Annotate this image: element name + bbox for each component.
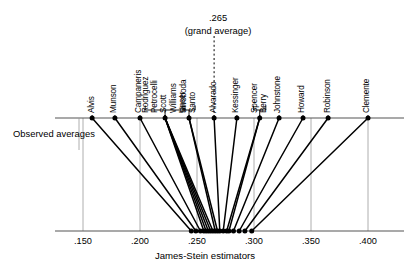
james-stein-point [231,229,236,234]
player-label-clemente: Clemente [362,79,371,113]
x-tick-label: .350 [291,236,331,246]
james-stein-point [249,229,254,234]
player-label-swoboda: Swoboda [179,80,188,113]
connector-line [229,118,260,231]
player-label-howard: Howard [297,85,306,113]
player-label-rodriguez: Rodriguez [141,77,150,113]
player-label-munson: Munson [109,84,118,113]
james-stein-point [242,229,247,234]
player-label-santo: Santo [188,92,197,113]
player-label-williams: Williams [169,83,178,113]
player-label-scott: Scott [159,95,168,113]
player-label-spencer: Spencer [250,83,259,113]
connector-line [245,118,328,231]
connector-line [214,118,220,231]
james-stein-point [226,229,231,234]
player-label-petrocelli: Petrocelli [150,80,159,113]
x-axis-title: James-Stein estimators [125,250,285,261]
x-tick-label: .400 [348,236,388,246]
x-tick-label: .250 [177,236,217,246]
player-label-robinson: Robinson [323,79,332,113]
player-label-alvarado: Alvarado [209,81,218,113]
connector-line [223,118,237,231]
x-tick-label: .150 [63,236,103,246]
connector-line [92,118,191,231]
player-label-johnstone: Johnstone [273,76,282,113]
james-stein-figure: .265 (grand average) Observed averages J… [0,0,411,268]
connector-line [252,118,368,231]
player-label-berry: Berry [259,94,268,113]
observed-averages-label: Observed averages [13,128,95,139]
james-stein-point [237,229,242,234]
james-stein-point [189,229,194,234]
connector-line [239,118,303,231]
player-label-kessinger: Kessinger [231,77,240,113]
grand-average-value: .265 [188,12,248,23]
james-stein-point [193,229,198,234]
connector-line [165,118,213,231]
connector-line [233,118,279,231]
x-tick-label: .300 [234,236,274,246]
grand-average-caption: (grand average) [168,25,268,36]
player-label-alvis: Alvis [87,96,96,113]
x-tick-label: .200 [120,236,160,246]
